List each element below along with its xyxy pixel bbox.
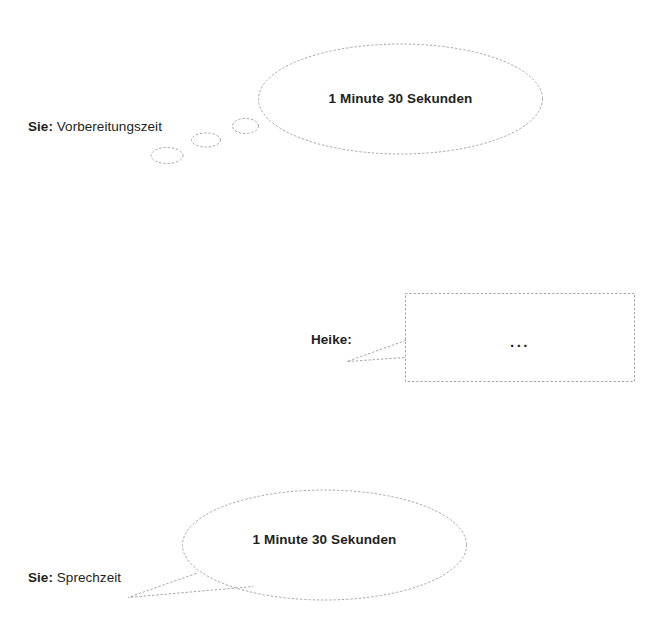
speaker-topic: Sprechzeit	[57, 570, 121, 585]
speaker-name: Sie:	[28, 119, 53, 134]
thought-cloud-text: 1 Minute 30 Sekunden	[258, 92, 543, 106]
speaker-label-preparation: Sie: Vorbereitungszeit	[28, 120, 162, 134]
rectangle-callout-tail-icon	[347, 341, 406, 362]
thought-bubble-small-icon	[151, 148, 183, 164]
thought-bubble-medium-icon	[192, 133, 221, 147]
speaker-label-partner: Heike:	[311, 333, 352, 347]
speaker-topic: Vorbereitungszeit	[57, 119, 162, 134]
speaker-name: Heike:	[311, 332, 352, 347]
speaker-name: Sie:	[28, 570, 53, 585]
thought-bubble-large-icon	[233, 119, 259, 134]
speech-balloon-tail-icon	[128, 574, 253, 598]
speaker-label-speaking: Sie: Sprechzeit	[28, 571, 121, 585]
rectangle-callout-text: ...	[405, 334, 635, 349]
diagram-canvas: Sie: Vorbereitungszeit 1 Minute 30 Sekun…	[0, 0, 665, 636]
speech-balloon-text: 1 Minute 30 Sekunden	[182, 533, 467, 547]
